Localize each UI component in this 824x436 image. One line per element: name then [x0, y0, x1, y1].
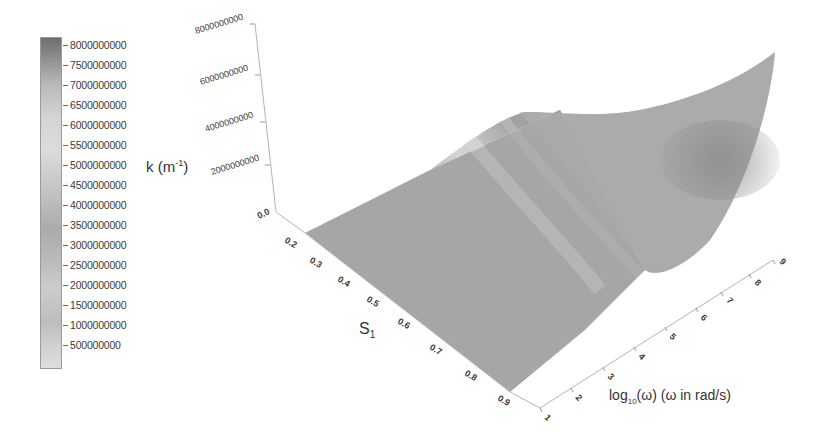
s1-tick-label: 0.8	[463, 368, 479, 383]
x-tick-label: 4	[637, 351, 648, 362]
z-axis-line	[255, 24, 276, 212]
s1-tick-label: 0.9	[496, 393, 512, 408]
z-axis-ticks: 8000000000 6000000000 4000000000 2000000…	[194, 12, 272, 221]
z-tick-label: 6000000000	[199, 63, 250, 87]
s1-axis-label: S1	[359, 320, 375, 340]
z-tick-label: 4000000000	[204, 110, 255, 134]
s1-tick-label: 0.2	[283, 235, 299, 250]
x-tick-label: 2	[574, 392, 585, 403]
x-tick-label: 6	[699, 312, 710, 323]
z-tick-label: 0.0	[256, 206, 272, 220]
x-tick-label: 1	[543, 412, 554, 423]
z-tick-label: 8000000000	[194, 12, 245, 36]
s1-axis-label-sub: 1	[370, 329, 376, 340]
z-tick-label: 2000000000	[210, 153, 261, 177]
x-tick-label: 8	[753, 277, 764, 288]
s1-tick-label: 0.7	[428, 342, 444, 357]
s1-axis-label-text: S	[359, 320, 370, 337]
x-axis-label-rest: (ω) (ω in rad/s)	[637, 387, 731, 403]
x-tick-label: 3	[606, 371, 617, 382]
s1-tick-label: 0.5	[365, 294, 381, 309]
s1-tick-label: 0.6	[396, 316, 412, 331]
y-axis-line-back	[276, 212, 305, 233]
x-tick-label: 5	[668, 331, 679, 342]
x-axis-label-log: log	[609, 387, 628, 403]
x-tick-label: 7	[725, 295, 736, 306]
x-axis-label: log10(ω) (ω in rad/s)	[609, 387, 731, 406]
s1-tick-label: 0.4	[336, 274, 352, 289]
surface-plot: 8000000000 6000000000 4000000000 2000000…	[0, 0, 824, 436]
x-axis-label-sub: 10	[628, 397, 637, 406]
x-tick-label: 9	[778, 256, 789, 267]
s1-tick-label: 0.3	[308, 255, 324, 270]
